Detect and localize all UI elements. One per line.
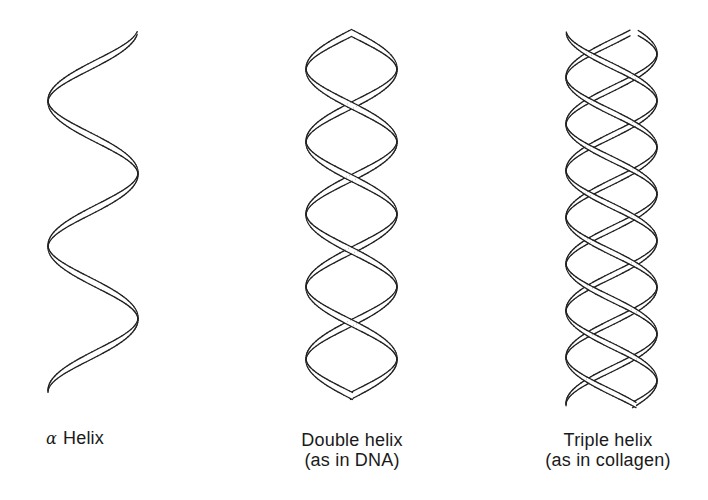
triple-helix-drawing [566,30,657,408]
alpha-helix-label: αHelix [36,428,156,449]
double-helix-title: Double helix [262,430,442,450]
alpha-helix-label-text: Helix [63,428,104,448]
triple-helix-title: Triple helix [510,430,706,450]
triple-helix-subtitle: (as in collagen) [510,450,706,470]
triple-helix-label: Triple helix (as in collagen) [510,430,706,470]
helix-diagram [0,0,708,500]
double-helix-label: Double helix (as in DNA) [262,430,442,470]
alpha-symbol: α [46,429,57,448]
double-helix-drawing [306,30,397,400]
double-helix-subtitle: (as in DNA) [262,450,442,470]
alpha-helix-drawing [48,32,138,393]
